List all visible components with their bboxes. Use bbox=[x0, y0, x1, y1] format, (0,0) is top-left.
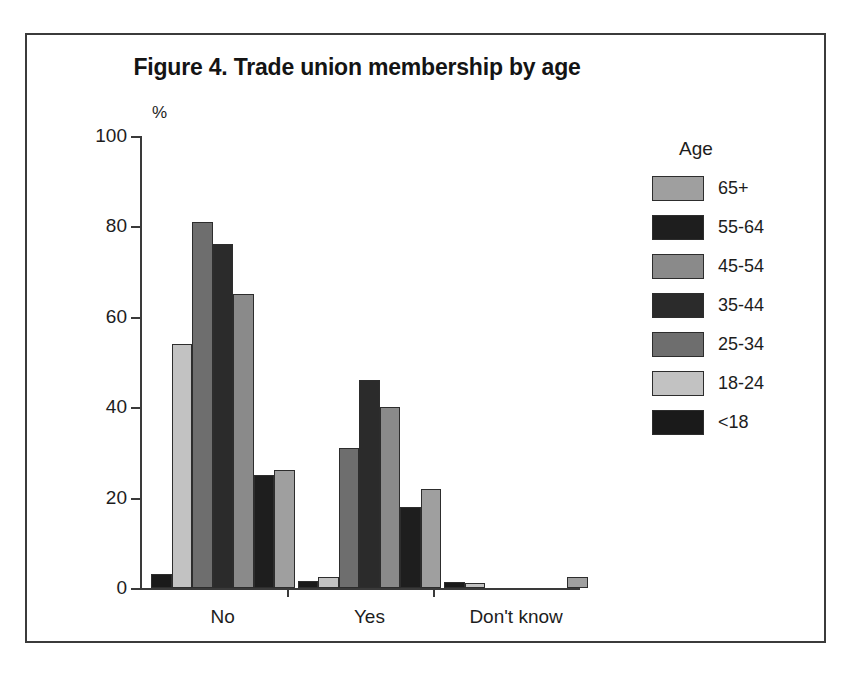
legend-swatch bbox=[652, 371, 704, 396]
bar bbox=[233, 294, 254, 588]
y-axis-unit-label: % bbox=[152, 103, 167, 123]
y-axis-tick-label: 0 bbox=[116, 577, 127, 599]
legend-label: 18-24 bbox=[718, 373, 764, 394]
x-axis-group-label: Don't know bbox=[469, 606, 562, 628]
y-axis-tick-label: 100 bbox=[95, 125, 127, 147]
legend-label: <18 bbox=[718, 412, 749, 433]
legend-item: 18-24 bbox=[652, 364, 812, 403]
legend-rows: 65+55-6445-5435-4425-3418-24<18 bbox=[652, 169, 812, 442]
chart-title: Figure 4. Trade union membership by age bbox=[27, 54, 687, 81]
x-axis-line bbox=[140, 588, 580, 590]
x-axis-tick bbox=[287, 588, 289, 597]
bar bbox=[444, 582, 465, 588]
plot-area: % 020406080100 NoYesDon't know bbox=[140, 136, 580, 588]
bar bbox=[465, 583, 486, 588]
legend-item: 25-34 bbox=[652, 325, 812, 364]
y-axis-line bbox=[140, 136, 142, 588]
y-axis-tick-label: 40 bbox=[106, 396, 127, 418]
legend-label: 35-44 bbox=[718, 295, 764, 316]
y-axis-tick-label: 80 bbox=[106, 215, 127, 237]
bar bbox=[421, 489, 442, 588]
legend: Age 65+55-6445-5435-4425-3418-24<18 bbox=[652, 138, 812, 442]
bar bbox=[318, 577, 339, 588]
x-axis-tick bbox=[433, 588, 435, 597]
legend-label: 25-34 bbox=[718, 334, 764, 355]
x-axis-group-label: Yes bbox=[354, 606, 385, 628]
x-axis-group-label: No bbox=[211, 606, 235, 628]
bar bbox=[380, 407, 401, 588]
legend-swatch bbox=[652, 332, 704, 357]
bar bbox=[192, 222, 213, 588]
y-axis-tick bbox=[131, 407, 140, 409]
legend-label: 45-54 bbox=[718, 256, 764, 277]
bar bbox=[567, 577, 588, 588]
bar bbox=[274, 470, 295, 588]
legend-swatch bbox=[652, 176, 704, 201]
legend-item: 35-44 bbox=[652, 286, 812, 325]
y-axis-tick bbox=[131, 136, 140, 138]
y-axis-tick bbox=[131, 226, 140, 228]
bar bbox=[213, 244, 234, 588]
legend-title: Age bbox=[679, 138, 812, 160]
y-axis-tick bbox=[131, 317, 140, 319]
legend-item: 55-64 bbox=[652, 208, 812, 247]
bar bbox=[339, 448, 360, 588]
y-axis-tick-label: 20 bbox=[106, 487, 127, 509]
bar bbox=[359, 380, 380, 588]
bar bbox=[298, 581, 319, 588]
y-axis-tick bbox=[131, 588, 140, 590]
legend-swatch bbox=[652, 410, 704, 435]
y-axis-tick-label: 60 bbox=[106, 306, 127, 328]
legend-item: 45-54 bbox=[652, 247, 812, 286]
legend-swatch bbox=[652, 215, 704, 240]
y-axis-tick bbox=[131, 498, 140, 500]
bar bbox=[254, 475, 275, 588]
legend-swatch bbox=[652, 293, 704, 318]
figure-frame: Figure 4. Trade union membership by age … bbox=[25, 33, 826, 643]
bar bbox=[400, 507, 421, 588]
bar bbox=[151, 574, 172, 588]
legend-item: 65+ bbox=[652, 169, 812, 208]
legend-swatch bbox=[652, 254, 704, 279]
bar bbox=[172, 344, 193, 588]
legend-label: 55-64 bbox=[718, 217, 764, 238]
legend-item: <18 bbox=[652, 403, 812, 442]
legend-label: 65+ bbox=[718, 178, 749, 199]
